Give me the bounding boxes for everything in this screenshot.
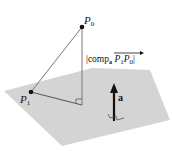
abs-bar-right: | — [133, 54, 135, 64]
label-scalar-projection: |compa P1P0 | — [86, 55, 135, 66]
label-p0-letter: P — [84, 14, 91, 26]
label-p0: P0 — [84, 15, 94, 28]
vector-p1p0: P1P0 — [114, 55, 133, 66]
plane — [4, 68, 170, 146]
distance-to-plane-diagram: P0 P1 a |compa P1P0 | — [0, 0, 172, 155]
vector-arrow-icon — [114, 51, 144, 55]
label-p0-sub: 0 — [91, 20, 95, 28]
label-p1-letter: P — [20, 93, 27, 105]
label-p1-sub: 1 — [27, 99, 31, 107]
label-normal-vector: a — [118, 93, 123, 103]
comp-text: comp — [88, 54, 109, 64]
vector-end-sub: 0 — [130, 58, 134, 66]
label-p1: P1 — [20, 94, 30, 107]
comp-subscript: a — [109, 59, 112, 65]
